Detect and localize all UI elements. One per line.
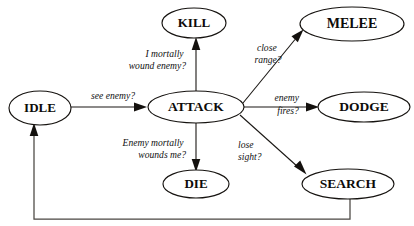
edge-label-line: wounds me?	[138, 149, 186, 160]
edge-label-line: lose	[238, 139, 254, 150]
edge-label-enemy-fires: enemy fires?	[275, 92, 302, 116]
edge-label-enemy-mortally-wounds-me: Enemy mortally wounds me?	[122, 137, 187, 160]
node-dodge-label: DODGE	[339, 99, 389, 114]
edge-label-line: Enemy mortally	[122, 137, 185, 148]
edge-label-see-enemy: see enemy?	[91, 90, 135, 101]
node-kill-label: KILL	[178, 15, 211, 30]
node-melee-label: MELEE	[327, 16, 378, 31]
node-melee[interactable]: MELEE	[300, 7, 404, 41]
node-kill[interactable]: KILL	[162, 8, 226, 38]
arrowhead-attack-melee	[292, 30, 304, 43]
node-search-label: SEARCH	[320, 176, 377, 191]
state-diagram: IDLE ATTACK KILL MELEE DODGE DIE SEARCH	[0, 0, 414, 226]
edge-label-line: fires?	[277, 105, 299, 116]
node-search[interactable]: SEARCH	[302, 169, 394, 199]
arrowhead-idle-attack	[134, 103, 147, 112]
edge-idle-to-attack	[71, 103, 147, 112]
state-diagram-canvas: IDLE ATTACK KILL MELEE DODGE DIE SEARCH	[0, 0, 414, 226]
edge-label-line: sight?	[238, 151, 262, 162]
edge-label-line: I mortally	[144, 48, 184, 59]
edge-label-line: enemy	[275, 92, 300, 103]
edge-label-close-range: close range?	[254, 42, 281, 65]
edge-label-i-mortally-wound-enemy: I mortally wound enemy?	[129, 48, 186, 71]
arrowhead-attack-search	[294, 160, 307, 174]
edge-attack-to-die	[192, 123, 201, 172]
edge-label-lose-sight: lose sight?	[238, 139, 262, 162]
node-attack-label: ATTACK	[168, 99, 224, 114]
edge-attack-to-kill	[192, 37, 201, 91]
edge-label-line: wound enemy?	[129, 60, 186, 71]
node-die-label: DIE	[184, 176, 207, 191]
arrowhead-attack-kill	[192, 37, 201, 50]
node-idle-label: IDLE	[24, 100, 56, 115]
node-die[interactable]: DIE	[163, 170, 229, 198]
edge-label-line: range?	[254, 54, 281, 65]
node-dodge[interactable]: DODGE	[318, 92, 410, 122]
arrowhead-attack-dodge	[306, 103, 319, 112]
edge-label-line: close	[257, 42, 277, 53]
node-attack[interactable]: ATTACK	[148, 91, 244, 123]
edge-label-line: see enemy?	[91, 90, 135, 101]
node-idle[interactable]: IDLE	[9, 91, 71, 125]
